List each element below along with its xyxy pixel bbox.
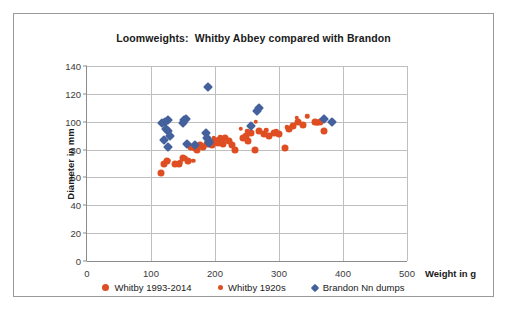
legend-item[interactable]: Whitby 1920s bbox=[218, 282, 286, 293]
data-point bbox=[226, 138, 231, 143]
data-point bbox=[305, 114, 310, 119]
y-axis-label: Diameter in mm bbox=[65, 128, 76, 199]
data-point bbox=[320, 128, 327, 135]
legend-label: Brandon Nn dumps bbox=[323, 282, 405, 293]
chart-legend: Whitby 1993-2014Whitby 1920sBrandon Nn d… bbox=[14, 282, 493, 293]
data-point bbox=[251, 146, 258, 153]
x-tick-label: 400 bbox=[335, 268, 351, 279]
y-tick-label: 100 bbox=[65, 116, 81, 127]
gridline-vertical bbox=[279, 66, 280, 261]
gridline-horizontal bbox=[87, 122, 407, 123]
y-tick-label: 0 bbox=[76, 256, 81, 267]
y-tick-mark bbox=[83, 149, 87, 150]
data-point bbox=[167, 158, 172, 163]
legend-label: Whitby 1993-2014 bbox=[114, 282, 191, 293]
x-tick-label: 0 bbox=[84, 268, 89, 279]
data-point bbox=[284, 125, 289, 130]
gridline-horizontal bbox=[87, 177, 407, 178]
legend-label: Whitby 1920s bbox=[228, 282, 286, 293]
y-tick-mark bbox=[83, 93, 87, 94]
y-tick-mark bbox=[83, 261, 87, 262]
gridline-horizontal bbox=[87, 94, 407, 95]
data-point bbox=[238, 126, 243, 131]
data-point bbox=[274, 129, 279, 134]
data-point bbox=[232, 146, 239, 153]
y-tick-label: 20 bbox=[70, 228, 81, 239]
data-point bbox=[282, 145, 289, 152]
x-tick-label: 300 bbox=[271, 268, 287, 279]
data-point bbox=[245, 138, 252, 145]
x-tick-label: 100 bbox=[143, 268, 159, 279]
data-point bbox=[218, 135, 223, 140]
data-point bbox=[300, 121, 307, 128]
y-tick-mark bbox=[83, 233, 87, 234]
data-point bbox=[315, 121, 320, 126]
chart-title: Loomweights: Whitby Abbey compared with … bbox=[14, 32, 493, 44]
gridline-vertical bbox=[343, 66, 344, 261]
data-point bbox=[203, 82, 213, 92]
y-tick-label: 40 bbox=[70, 200, 81, 211]
data-point bbox=[158, 170, 165, 177]
x-axis-label: Weight in g bbox=[425, 268, 476, 279]
y-tick-mark bbox=[83, 66, 87, 67]
x-tick-label: 500 bbox=[399, 268, 415, 279]
legend-item[interactable]: Brandon Nn dumps bbox=[312, 282, 405, 293]
data-point bbox=[254, 119, 259, 124]
y-tick-label: 120 bbox=[65, 88, 81, 99]
data-point bbox=[191, 158, 196, 163]
data-point bbox=[264, 128, 269, 133]
gridline-horizontal bbox=[87, 205, 407, 206]
data-point bbox=[178, 160, 183, 165]
legend-circle-icon bbox=[102, 284, 109, 291]
x-axis-line bbox=[87, 261, 407, 262]
legend-diamond-icon bbox=[310, 283, 318, 291]
chart-container: Loomweights: Whitby Abbey compared with … bbox=[13, 13, 494, 297]
gridline-vertical bbox=[407, 66, 408, 261]
legend-circle-icon bbox=[218, 285, 224, 291]
plot-area: 020406080100120140 0100200300400500 Diam… bbox=[87, 66, 407, 261]
data-point bbox=[245, 129, 250, 134]
legend-item[interactable]: Whitby 1993-2014 bbox=[102, 282, 191, 293]
gridline-vertical bbox=[151, 66, 152, 261]
gridline-horizontal bbox=[87, 233, 407, 234]
gridline-horizontal bbox=[87, 150, 407, 151]
data-point bbox=[183, 156, 188, 161]
data-point bbox=[295, 115, 300, 120]
y-tick-mark bbox=[83, 177, 87, 178]
y-tick-label: 140 bbox=[65, 61, 81, 72]
gridline-horizontal bbox=[87, 66, 407, 67]
x-tick-label: 200 bbox=[207, 268, 223, 279]
y-tick-mark bbox=[83, 205, 87, 206]
gridline-vertical bbox=[215, 66, 216, 261]
y-tick-mark bbox=[83, 121, 87, 122]
